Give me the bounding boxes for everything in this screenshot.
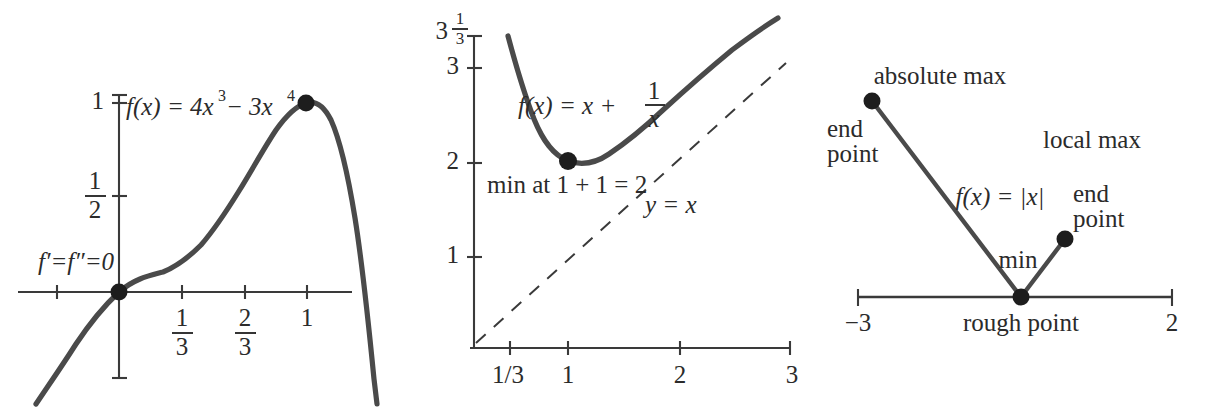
right-end-point-left-line2: point [827, 140, 878, 167]
right-end-point-right-line2: point [1073, 205, 1124, 232]
calculus-figure-three-panels: f(x) = 4x 3 − 3x 4 f′=f″=0 1 1 2 1 3 2 3… [0, 0, 1215, 407]
right-local-max-dot [1057, 231, 1074, 248]
right-end-point-right-line1: end [1073, 180, 1110, 207]
right-absolute-max-label: absolute max [874, 62, 1007, 89]
right-end-point-left-line1: end [827, 115, 864, 142]
panel-right-absolute-value: absolute max end point local max end poi… [0, 0, 1215, 407]
right-xlabel-2: 2 [1166, 309, 1179, 336]
right-local-max-label: local max [1043, 126, 1141, 153]
right-min-rough-point-dot [1013, 289, 1030, 306]
right-absolute-max-dot [864, 93, 881, 110]
right-rough-point-label: rough point [963, 309, 1079, 336]
right-equation-label: f(x) = |x| [956, 183, 1045, 211]
right-xlabel-neg3: −3 [845, 309, 872, 336]
right-min-label: min [999, 246, 1038, 273]
